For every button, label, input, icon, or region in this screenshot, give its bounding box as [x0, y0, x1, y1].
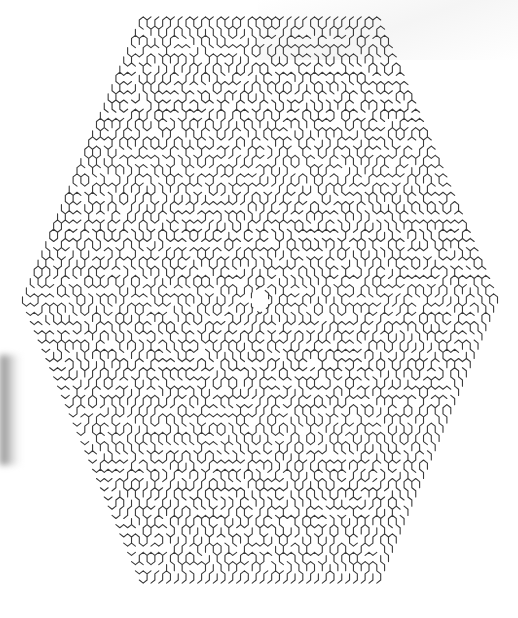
maze-walls — [23, 17, 498, 583]
hex-maze[interactable] — [0, 0, 518, 618]
maze-page — [0, 0, 518, 618]
